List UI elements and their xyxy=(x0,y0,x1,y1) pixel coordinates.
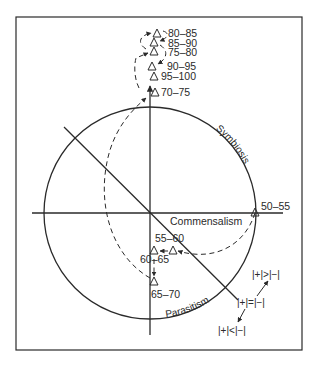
data-point-55-60: 55–60 xyxy=(155,232,184,254)
svg-text:70–75: 70–75 xyxy=(161,86,190,98)
data-point-70-75: 70–75 xyxy=(151,86,190,98)
svg-text:55–60: 55–60 xyxy=(155,232,184,244)
data-point-65-70: 65–70 xyxy=(150,277,180,300)
svg-text:50–55: 50–55 xyxy=(261,200,290,212)
data-point-95-100: 95–100 xyxy=(150,70,196,82)
symbiosis-commensalism-parasitism-diagram: 50–55 55–60 60–65 65–70 70–75 75–80 80–8… xyxy=(0,0,315,367)
svg-text:60–65: 60–65 xyxy=(140,253,169,265)
data-point-85-90: 85–90 xyxy=(150,37,197,49)
relation-greater-label: |+|>|−| xyxy=(252,269,280,280)
data-point-60-65: 60–65 xyxy=(140,246,169,265)
relation-equal-label: |+|=|−| xyxy=(237,297,265,308)
svg-text:65–70: 65–70 xyxy=(151,288,180,300)
relation-less-label: |+|<|−| xyxy=(218,325,246,336)
svg-text:85–90: 85–90 xyxy=(168,37,197,49)
commensalism-label: Commensalism xyxy=(170,215,243,227)
svg-text:95–100: 95–100 xyxy=(161,70,196,82)
symbiosis-label: Symbiosis xyxy=(214,122,252,165)
arrow-to-greater xyxy=(257,281,268,296)
arrow-to-less xyxy=(238,309,245,322)
